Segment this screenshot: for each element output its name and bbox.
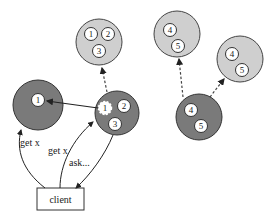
node-label: 3 (113, 119, 118, 129)
node-label: 4 (168, 25, 173, 35)
group-left-dark: 1 (13, 80, 63, 130)
group-center-dark: 1 2 3 (95, 91, 139, 135)
dashed-arrow-rightdark-to-rightlight (210, 79, 224, 97)
dashed-arrow-center-to-topleft (102, 68, 107, 92)
diagram-canvas: 1 2 3 4 5 4 5 1 (0, 0, 277, 223)
diagram-svg: 1 2 3 4 5 4 5 1 (0, 0, 277, 223)
client-box: client (37, 188, 84, 210)
node-label: 5 (176, 41, 181, 51)
label-get-x-center: get x (48, 145, 68, 156)
dashed-arrow-rightdark-to-topmid (179, 59, 183, 97)
group-top-left-light: 1 2 3 (76, 19, 122, 65)
label-ask: ask... (69, 157, 90, 168)
label-get-x-left: get x (20, 137, 40, 148)
node-label: 4 (189, 105, 194, 115)
group-right-dark: 4 5 (176, 94, 222, 140)
node-label: 3 (97, 46, 102, 56)
node-label: 2 (106, 29, 111, 39)
node-label: 4 (230, 49, 235, 59)
node-label: 5 (199, 121, 204, 131)
node-label: 1 (36, 95, 41, 105)
node-label: 1 (89, 29, 94, 39)
node-label: 2 (122, 101, 127, 111)
node-label: 1 (103, 103, 108, 113)
node-label: 5 (240, 65, 245, 75)
group-top-mid-light: 4 5 (154, 11, 200, 57)
group-right-light: 4 5 (217, 36, 263, 82)
client-label: client (49, 194, 71, 205)
